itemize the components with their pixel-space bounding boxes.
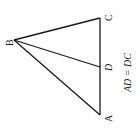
triangle-diagram: B C D A AD = DC [0, 0, 140, 133]
segment-bd [14, 40, 100, 67]
vertex-label-d: D [103, 63, 114, 72]
vertex-label-b: B [4, 39, 15, 46]
vertex-label-a: A [103, 114, 114, 122]
segment-ba [14, 40, 100, 115]
segment-bc [14, 18, 100, 40]
vertex-label-c: C [103, 14, 114, 21]
caption-equation: AD = DC [122, 53, 133, 93]
